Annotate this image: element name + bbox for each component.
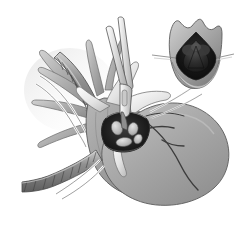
- forceps-ratchet: [122, 90, 127, 106]
- surgical-illustration: Surgical illustration: heart with atriot…: [0, 0, 242, 226]
- figure-root: Surgical illustration: heart with atriot…: [0, 0, 242, 226]
